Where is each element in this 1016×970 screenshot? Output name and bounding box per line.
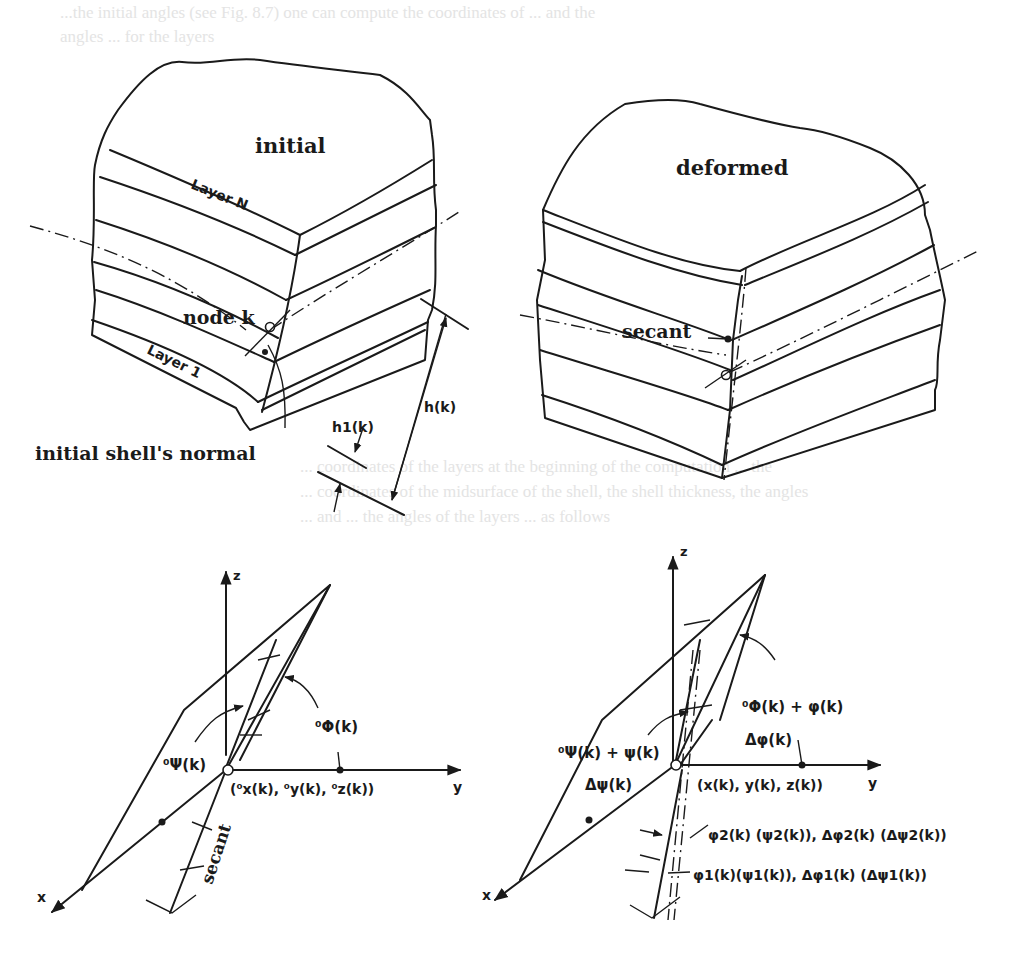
- y-axis-label-left: y: [453, 779, 462, 795]
- svg-text:... and ... the angles of the: ... and ... the angles of the layers ...…: [300, 507, 610, 526]
- shell-thickness-label: h(k): [424, 399, 456, 415]
- y-axis-label-right: y: [868, 775, 877, 791]
- svg-text:... coordinates of the midsurf: ... coordinates of the midsurface of the…: [300, 482, 808, 501]
- node-k-label: node k: [183, 306, 255, 328]
- delta-phi-label-right: Δφ(k): [745, 731, 792, 749]
- delta-psi-label-right: Δψ(k): [585, 776, 632, 794]
- svg-text:... coordinates of the layers: ... coordinates of the layers at the beg…: [300, 457, 772, 476]
- svg-text:...the initial angles (see Fig: ...the initial angles (see Fig. 8.7) one…: [60, 3, 595, 22]
- origin-label-left: (⁰x(k), ⁰y(k), ⁰z(k)): [230, 781, 374, 797]
- secant-label-top: secant: [622, 320, 691, 342]
- deformed-label: deformed: [676, 155, 789, 180]
- psi-angle-label-left: ⁰Ψ(k): [163, 756, 206, 774]
- z-axis-label-left: z: [233, 568, 241, 583]
- z-axis-label-right: z: [680, 544, 688, 559]
- origin-label-right: (x(k), y(k), z(k)): [697, 777, 823, 793]
- deformed-coordinate-system: [495, 557, 880, 920]
- phi-angle-label-left: ⁰Φ(k): [315, 718, 358, 736]
- layer-n-label: Layer N: [189, 176, 251, 213]
- layer-1-angles-label: φ1(k)(ψ1(k)), Δφ1(k) (Δψ1(k)): [693, 867, 927, 883]
- shell-layer-figure: ...the initial angles (see Fig. 8.7) one…: [0, 0, 1016, 970]
- initial-coordinate-system: [52, 572, 460, 913]
- initial-label: initial: [255, 133, 326, 158]
- svg-text:angles ... for the layers: angles ... for the layers: [60, 27, 214, 46]
- layer-thickness-label: h1(k): [332, 419, 374, 435]
- x-axis-label-right: x: [482, 887, 491, 903]
- psi-angle-label-right: ⁰Ψ(k) + ψ(k): [558, 744, 660, 762]
- phi-angle-label-right: ⁰Φ(k) + φ(k): [742, 698, 843, 716]
- initial-normal-label: initial shell's normal: [35, 442, 256, 464]
- x-axis-label-left: x: [37, 889, 46, 905]
- layer-2-angles-label: φ2(k) (ψ2(k)), Δφ2(k) (Δψ2(k)): [708, 827, 947, 843]
